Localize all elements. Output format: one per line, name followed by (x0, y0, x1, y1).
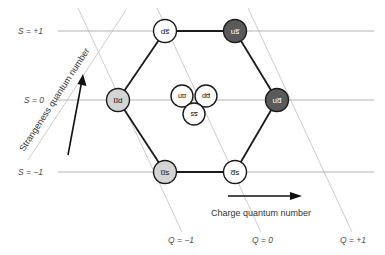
node-us-bar[interactable]: us̅ (224, 20, 247, 43)
tick-label-q-minus-1: Q = −1 (168, 235, 194, 245)
center-nodes: uu̅ dd̅ ss̅ (171, 85, 217, 125)
guide-line-q-0 (157, 8, 261, 232)
node-ds-bar-label: ds̅ (161, 27, 170, 36)
tick-label-s-minus-1: S = −1 (18, 167, 43, 177)
bond-lower-left (118, 100, 165, 172)
strangeness-arrow-line (68, 80, 82, 155)
node-d-dbar-label: dd̅ (202, 91, 211, 100)
node-u-ubar-label: uu̅ (178, 91, 187, 100)
charge-axis-group: Charge quantum number (211, 192, 311, 218)
node-d-bar-s-label: d̅s (230, 168, 239, 177)
node-ud-bar[interactable]: ud̅ (266, 89, 289, 112)
node-u-bar-d[interactable]: u̅d (107, 89, 130, 112)
node-d-bar-s[interactable]: d̅s (224, 161, 247, 184)
node-u-bar-d-label: u̅d (113, 96, 123, 105)
charge-arrow-head (290, 192, 302, 200)
node-us-bar-label: us̅ (231, 27, 240, 36)
node-ds-bar[interactable]: ds̅ (154, 20, 177, 43)
strangeness-arrow-head (78, 74, 87, 86)
diagram-canvas: ds̅ us̅ u̅d ud̅ u̅s d̅s (0, 0, 385, 255)
node-s-sbar-label: ss̅ (190, 109, 198, 118)
tick-label-q-0: Q = 0 (252, 235, 273, 245)
bond-lower-right (235, 100, 277, 172)
node-ud-bar-label: ud̅ (273, 96, 283, 105)
guide-line-q-plus-1 (248, 8, 352, 232)
node-u-bar-s-label: u̅s (160, 168, 169, 177)
charge-axis-title: Charge quantum number (211, 208, 311, 218)
tick-label-s-0: S = 0 (24, 95, 44, 105)
node-s-sbar[interactable]: ss̅ (183, 103, 205, 125)
node-u-bar-s[interactable]: u̅s (154, 161, 177, 184)
tick-label-s-plus-1: S = +1 (18, 26, 43, 36)
tick-label-q-plus-1: Q = +1 (340, 235, 366, 245)
bond-upper-left (118, 31, 165, 100)
meson-nonet-diagram: ds̅ us̅ u̅d ud̅ u̅s d̅s (0, 0, 385, 255)
charge-tick-labels: Q = −1 Q = 0 Q = +1 (168, 235, 366, 245)
